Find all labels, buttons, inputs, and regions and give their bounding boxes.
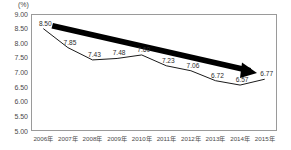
x-axis-tick-label: 2009年 <box>107 135 127 142</box>
x-axis-tick-label: 2007年 <box>58 135 78 142</box>
line-chart: (%) 9.008.508.007.507.006.506.005.505.00… <box>0 0 291 150</box>
x-axis-tick-label: 2012年 <box>181 135 201 142</box>
data-point-label: 7.60 <box>137 46 150 53</box>
data-point-label: 7.48 <box>113 49 126 56</box>
data-point-label: 7.43 <box>88 51 101 58</box>
data-series-line <box>43 29 264 85</box>
x-axis-tick-label: 2010年 <box>132 135 152 142</box>
x-axis-tick-label: 2011年 <box>157 135 176 142</box>
downward-trend-arrow <box>52 23 258 78</box>
x-axis-tick-label: 2015年 <box>255 135 275 142</box>
data-point-label: 8.50 <box>39 20 52 27</box>
data-point-label: 7.23 <box>162 57 175 64</box>
data-point-label: 6.57 <box>236 76 249 83</box>
x-axis-tick-label: 2008年 <box>83 135 103 142</box>
data-point-label: 6.72 <box>211 72 224 79</box>
x-axis-tick-label: 2006年 <box>33 135 53 142</box>
data-point-label: 6.77 <box>260 70 273 77</box>
data-point-label: 7.06 <box>186 62 199 69</box>
x-axis-tick-label: 2013年 <box>206 135 226 142</box>
data-point-label: 7.85 <box>63 39 76 46</box>
x-axis-tick-label: 2014年 <box>230 135 250 142</box>
